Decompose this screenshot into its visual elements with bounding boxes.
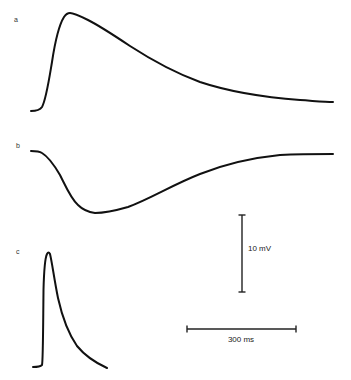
trace-a [31, 13, 333, 111]
panel-label-b: b [16, 142, 20, 149]
trace-c [33, 253, 107, 369]
time-scale-bar [187, 326, 296, 333]
voltage-scale-label: 10 mV [248, 244, 272, 253]
figure-canvas: a b c 10 mV 300 ms [0, 0, 351, 380]
panel-label-a: a [14, 16, 18, 23]
panel-label-c: c [16, 248, 20, 255]
time-scale-label: 300 ms [228, 335, 254, 344]
trace-b [31, 151, 333, 213]
voltage-scale-bar [239, 215, 246, 292]
